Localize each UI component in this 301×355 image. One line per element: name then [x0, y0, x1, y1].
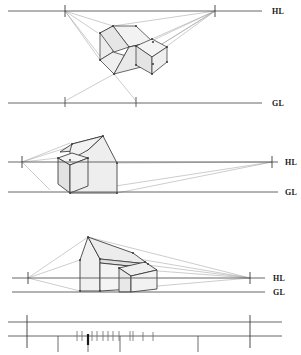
ground-label-2: GL: [285, 188, 297, 197]
panel-worms-eye: HL GL: [8, 135, 297, 197]
ground-label-1: GL: [272, 99, 284, 108]
panel-birdseye: HL GL: [8, 5, 284, 108]
measuring-major-ticks: [27, 315, 250, 348]
ground-label-3: GL: [273, 288, 285, 297]
measuring-strip: [8, 315, 282, 352]
horizon-label-1: HL: [272, 7, 284, 16]
horizon-label-3: HL: [273, 274, 285, 283]
measuring-lower-ticks: [58, 336, 198, 352]
perspective-diagram: HL GL: [0, 0, 301, 355]
horizon-label-2: HL: [285, 158, 297, 167]
construction-rays-left-vp-3: [28, 237, 88, 291]
panel-eye-level: HL GL: [12, 236, 285, 297]
perspective-drawing-sheet: HL GL: [0, 0, 301, 355]
